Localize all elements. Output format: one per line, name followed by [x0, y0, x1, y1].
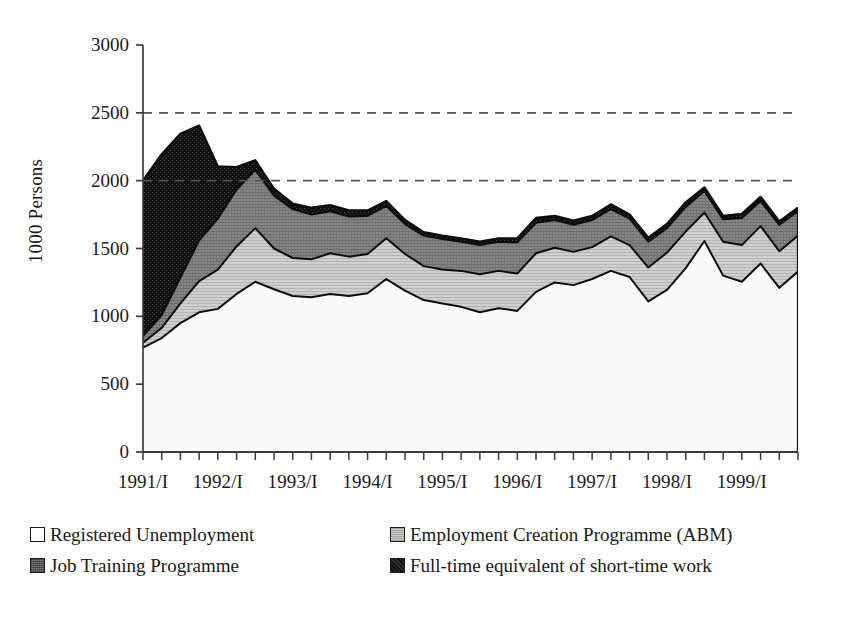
legend-swatch-icon	[30, 558, 45, 573]
y-tick-label: 2000	[65, 171, 129, 190]
legend-swatch-icon	[390, 527, 405, 542]
legend-item-short-time-work: Full-time equivalent of short-time work	[390, 556, 712, 576]
legend-label: Employment Creation Programme (ABM)	[410, 525, 732, 545]
x-tick-label: 1999/I	[697, 472, 787, 491]
legend-item-employment-creation-programme: Employment Creation Programme (ABM)	[390, 525, 732, 545]
chart-figure: 1000 Persons 050010001500200025003000 19…	[0, 0, 859, 621]
chart-legend: Registered Unemployment Employment Creat…	[30, 519, 830, 581]
y-axis-title: 1000 Persons	[25, 131, 47, 291]
y-tick-label: 0	[65, 442, 129, 461]
y-tick-label: 1000	[65, 306, 129, 325]
area-series-group	[143, 126, 798, 452]
legend-row: Registered Unemployment Employment Creat…	[30, 519, 830, 550]
y-tick-label: 1500	[65, 239, 129, 258]
y-tick-label: 500	[65, 374, 129, 393]
legend-row: Job Training Programme Full-time equival…	[30, 550, 830, 581]
legend-item-registered-unemployment: Registered Unemployment	[30, 525, 390, 545]
legend-label: Job Training Programme	[50, 556, 239, 576]
legend-item-job-training-programme: Job Training Programme	[30, 556, 390, 576]
legend-swatch-icon	[30, 527, 45, 542]
legend-label: Registered Unemployment	[50, 525, 254, 545]
y-tick-label: 3000	[65, 35, 129, 54]
y-tick-label: 2500	[65, 103, 129, 122]
legend-swatch-icon	[390, 558, 405, 573]
legend-label: Full-time equivalent of short-time work	[410, 556, 712, 576]
